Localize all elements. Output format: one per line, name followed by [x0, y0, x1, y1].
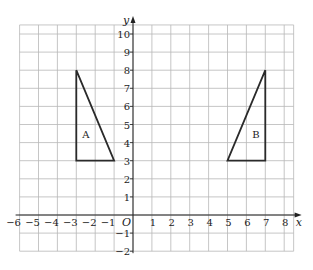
x-tick-label: 7 — [263, 217, 269, 228]
x-tick-label: 6 — [244, 217, 250, 228]
x-tick-label: 4 — [206, 217, 212, 228]
y-tick-label: −2 — [115, 246, 130, 257]
y-axis-label: y — [122, 14, 130, 27]
x-tick-label: 2 — [169, 217, 175, 228]
y-tick-label: 5 — [124, 120, 130, 131]
x-tick-label: 5 — [225, 217, 231, 228]
coordinate-grid: xy−6−5−4−3−2−112345678−2−112345678910O A… — [0, 0, 313, 270]
y-tick-label: 6 — [124, 101, 130, 112]
y-axis-arrow-icon — [131, 16, 136, 23]
x-tick-label: 8 — [282, 217, 288, 228]
triangle-label-a: A — [81, 129, 90, 140]
y-tick-label: 3 — [124, 156, 130, 167]
y-tick-label: 2 — [124, 174, 130, 185]
x-tick-label: −1 — [101, 217, 116, 228]
y-tick-label: 1 — [124, 192, 130, 203]
x-tick-label: −5 — [25, 217, 40, 228]
y-tick-label: 8 — [124, 65, 130, 76]
x-tick-label: −2 — [82, 217, 97, 228]
y-tick-label: 9 — [124, 47, 130, 58]
x-tick-label: −6 — [6, 217, 21, 228]
x-tick-label: 3 — [188, 217, 194, 228]
origin-label: O — [122, 216, 131, 229]
y-tick-label: −1 — [115, 228, 130, 239]
y-tick-label: 10 — [117, 29, 130, 40]
x-tick-label: −4 — [44, 217, 59, 228]
y-tick-label: 7 — [124, 83, 130, 94]
x-axis-label: x — [296, 216, 303, 229]
y-tick-label: 4 — [124, 138, 130, 149]
triangle-label-b: B — [252, 129, 259, 140]
x-tick-label: −3 — [63, 217, 78, 228]
x-tick-label: 1 — [150, 217, 156, 228]
